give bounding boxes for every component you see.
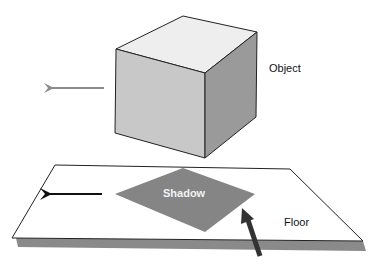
object-label: Object — [269, 62, 301, 74]
shadow-label: Shadow — [163, 187, 205, 199]
cube-object — [115, 16, 257, 158]
floor-label: Floor — [284, 216, 309, 228]
shadow-diagram — [0, 0, 378, 267]
